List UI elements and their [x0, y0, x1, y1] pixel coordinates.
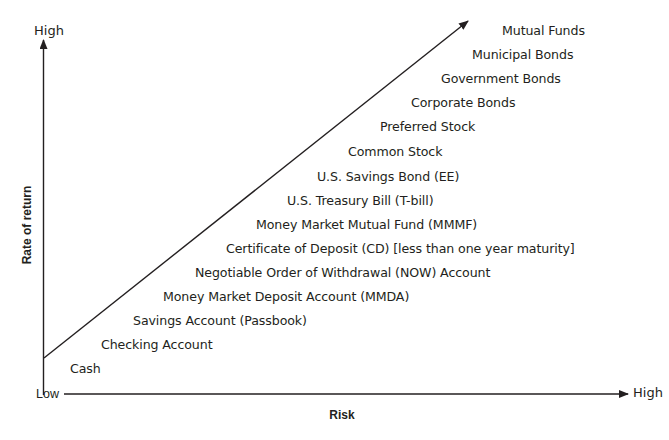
investment-label: Money Market Deposit Account (MMDA): [163, 290, 409, 304]
investment-label: Preferred Stock: [380, 120, 475, 134]
y-axis-title: Rate of return: [20, 186, 34, 265]
investment-label: Mutual Funds: [502, 24, 585, 38]
investment-label: Common Stock: [348, 145, 442, 159]
investment-label: U.S. Savings Bond (EE): [317, 170, 459, 184]
investment-label: Municipal Bonds: [472, 48, 573, 62]
investment-label: Government Bonds: [441, 72, 561, 86]
investment-label: Corporate Bonds: [411, 96, 515, 110]
y-axis-high-label: High: [34, 24, 64, 38]
investment-label: Savings Account (Passbook): [133, 314, 307, 328]
investment-label: Cash: [70, 362, 101, 376]
investment-label: Certificate of Deposit (CD) [less than o…: [226, 242, 575, 256]
x-axis-high-label: High: [633, 386, 663, 400]
investment-label: Checking Account: [101, 338, 212, 352]
risk-return-trend-arrow: [44, 21, 468, 358]
investment-label: Money Market Mutual Fund (MMMF): [256, 218, 477, 232]
origin-low-label: Low: [36, 387, 59, 401]
x-axis-title: Risk: [329, 408, 354, 422]
investment-label: Negotiable Order of Withdrawal (NOW) Acc…: [195, 266, 490, 280]
investment-label: U.S. Treasury Bill (T-bill): [287, 194, 433, 208]
